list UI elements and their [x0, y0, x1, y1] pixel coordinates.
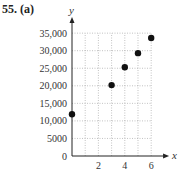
y-tick-label: 5000 — [47, 133, 67, 144]
x-tick-label: 4 — [122, 160, 127, 171]
y-axis-label: y — [68, 4, 74, 16]
x-axis-label: x — [171, 149, 177, 161]
x-tick-label: 2 — [96, 160, 101, 171]
y-axis-arrow-icon — [70, 17, 75, 23]
data-point — [108, 82, 114, 88]
data-point — [148, 35, 154, 41]
data-point — [122, 64, 128, 70]
y-tick-label: 10,000 — [40, 115, 68, 126]
y-tick-label: 20,000 — [40, 80, 68, 91]
x-axis-arrow-icon — [163, 154, 169, 159]
y-tick-label: 30,000 — [40, 45, 68, 56]
data-point — [135, 50, 141, 56]
scatter-chart: yx0500010,00015,00020,00025,00030,00035,… — [0, 0, 182, 174]
y-tick-label: 25,000 — [40, 63, 68, 74]
data-point — [69, 111, 75, 117]
y-tick-label: 15,000 — [40, 98, 68, 109]
x-tick-label: 6 — [149, 160, 154, 171]
y-tick-label: 0 — [62, 151, 67, 162]
y-tick-label: 35,000 — [40, 28, 68, 39]
